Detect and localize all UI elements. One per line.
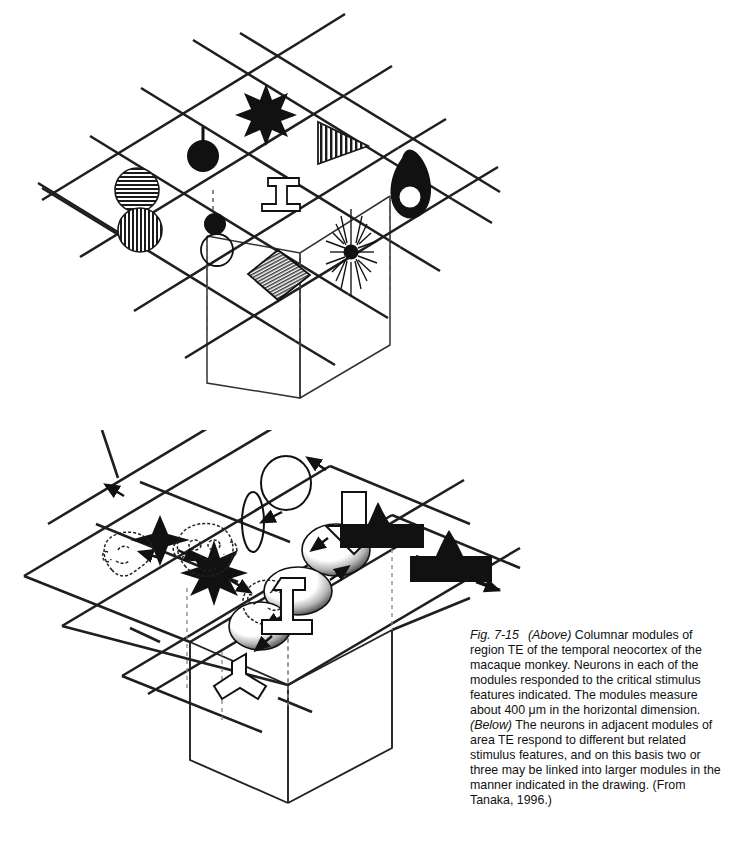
iso-grid-above: [38, 33, 500, 358]
caption-text: Fig. 7-15(Above) Columnar modules of reg…: [470, 628, 728, 808]
figure-root: Fig. 7-15(Above) Columnar modules of reg…: [0, 0, 734, 863]
caption-above-label: (Above): [528, 628, 571, 642]
module-striped-triangle: [318, 122, 368, 164]
figure-number: Fig. 7-15: [470, 628, 519, 642]
module-radial-starburst: [326, 209, 377, 296]
module-eight-point-star: [235, 84, 297, 146]
module-black-blob-with-hole: [390, 149, 431, 218]
column-3d-above: [207, 196, 390, 398]
figure-caption: Fig. 7-15(Above) Columnar modules of reg…: [470, 628, 728, 808]
panel-above: [0, 0, 734, 430]
module-small-disc-open-circle: [201, 190, 233, 266]
module-t-shape-outline: [262, 178, 300, 211]
caption-below-label: (Below): [470, 718, 512, 732]
